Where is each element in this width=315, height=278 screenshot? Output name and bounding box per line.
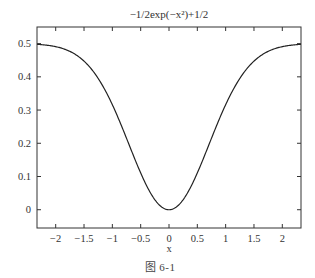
x-tick-label: 1.5 bbox=[247, 233, 260, 244]
y-tick-label: 0.4 bbox=[18, 71, 32, 82]
chart-figure: −1/2exp(−x²)+1/2 −2−1.5−1−0.500.511.52 0… bbox=[0, 0, 315, 278]
y-axis-ticks: 00.10.20.30.40.5 bbox=[18, 38, 301, 215]
x-axis-label: x bbox=[166, 243, 172, 254]
x-axis-ticks: −2−1.5−1−0.500.511.52 bbox=[50, 27, 285, 244]
x-tick-label: −2 bbox=[50, 233, 61, 244]
plot-area bbox=[37, 44, 301, 209]
x-tick-label: −1 bbox=[107, 233, 118, 244]
y-tick-label: 0 bbox=[26, 204, 31, 215]
x-tick-label: −1.5 bbox=[74, 233, 93, 244]
y-tick-label: 0.2 bbox=[18, 138, 31, 149]
figure-caption: 图 6-1 bbox=[0, 258, 315, 274]
data-curve bbox=[37, 44, 301, 209]
x-tick-label: 1 bbox=[223, 233, 228, 244]
y-tick-label: 0.3 bbox=[18, 105, 31, 116]
y-tick-label: 0.5 bbox=[18, 38, 31, 49]
chart-title: −1/2exp(−x²)+1/2 bbox=[130, 8, 209, 21]
y-tick-label: 0.1 bbox=[18, 171, 31, 182]
axes-frame bbox=[37, 27, 301, 228]
x-tick-label: 2 bbox=[280, 233, 285, 244]
x-tick-label: −0.5 bbox=[131, 233, 150, 244]
x-tick-label: 0.5 bbox=[191, 233, 204, 244]
